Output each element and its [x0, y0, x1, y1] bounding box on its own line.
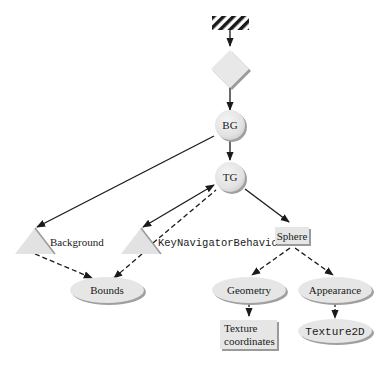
- bounds-node: Bounds: [70, 277, 146, 305]
- sphere-node: Sphere: [275, 227, 311, 246]
- edge-sphere-appearance: [295, 248, 333, 275]
- keynavigator-node: KeyNavigatorBehavior: [121, 228, 284, 254]
- locale-node: [212, 16, 249, 30]
- bg-label: BG: [222, 119, 237, 131]
- geometry-label: Geometry: [227, 284, 271, 296]
- tg-label: TG: [223, 171, 238, 183]
- bg-node: BG: [215, 110, 247, 142]
- bounds-label: Bounds: [90, 284, 124, 296]
- edge-keynavigator-bounds: [114, 254, 142, 278]
- edge-background-bounds: [35, 254, 92, 278]
- edge-bg-background: [37, 136, 214, 227]
- sphere-label: Sphere: [277, 230, 308, 242]
- background-label: Background: [50, 236, 104, 248]
- view-platform-node: [211, 50, 251, 90]
- geometry-node: Geometry: [212, 277, 288, 305]
- texture2d-node: Texture2D: [298, 319, 374, 345]
- edges: [35, 30, 335, 318]
- tg-node: TG: [215, 162, 247, 194]
- texture-coordinates-node: Texture coordinates: [220, 320, 279, 351]
- background-node: Background: [15, 228, 104, 254]
- texture-coordinates-label-2: coordinates: [224, 335, 275, 347]
- scene-graph-diagram: BG TG Background KeyNavigatorBehavior Sp…: [0, 0, 392, 366]
- texture2d-label: Texture2D: [305, 326, 365, 338]
- appearance-node: Appearance: [298, 277, 374, 305]
- texture-coordinates-label-1: Texture: [224, 322, 258, 334]
- edge-sphere-geometry: [252, 248, 290, 275]
- edge-tg-sphere: [245, 189, 289, 222]
- edge-keynavigator-tg-dashed: [153, 190, 216, 243]
- keynavigator-label: KeyNavigatorBehavior: [158, 237, 284, 249]
- appearance-label: Appearance: [309, 284, 362, 296]
